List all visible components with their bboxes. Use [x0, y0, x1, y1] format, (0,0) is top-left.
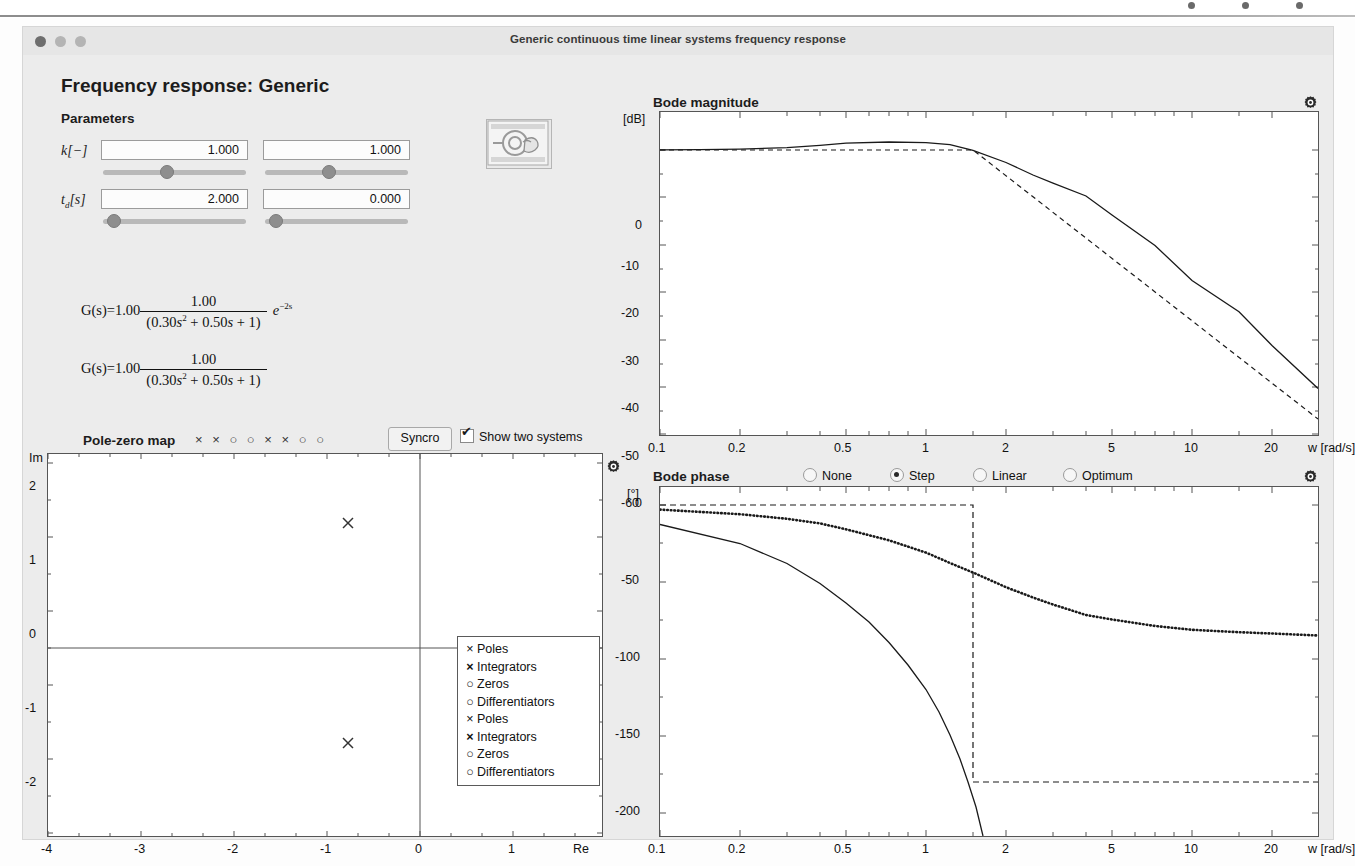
td-slider-1[interactable]: [103, 214, 246, 228]
bp-xtick-5: 5: [1108, 842, 1115, 856]
bode-magnitude-plot[interactable]: [659, 111, 1319, 436]
bp-xtick-0p1: 0.1: [648, 842, 665, 856]
bp-xtick-2: 2: [1002, 842, 1009, 856]
formula-1-denominator: (0.30s2 + 0.50s + 1): [140, 311, 266, 331]
formula-1-lhs: G(s)=1.00: [81, 302, 140, 318]
param-label-k: k[−]: [61, 143, 88, 159]
legend-label: Integrators: [477, 660, 537, 674]
radio-none-label: None: [822, 469, 852, 483]
radio-option-step[interactable]: Step: [890, 468, 935, 483]
window-title: Generic continuous time linear systems f…: [23, 33, 1333, 45]
bm-ytick-m10: -10: [621, 259, 639, 273]
bode-magnitude-x-axis-label: w [rad/s]: [1308, 441, 1355, 455]
pole-zero-header-symbols: × × ○ ○ × × ○ ○: [195, 432, 327, 447]
legend-item-integrators-2: ×Integrators: [463, 729, 593, 747]
bode-magnitude-gear-icon[interactable]: [1303, 95, 1318, 110]
radio-optimum-indicator[interactable]: [1063, 468, 1077, 482]
radio-option-optimum[interactable]: Optimum: [1063, 468, 1133, 483]
bode-magnitude-y-unit: [dB]: [623, 112, 645, 126]
pz-xtick-m1: -1: [320, 842, 331, 856]
bm-ytick-0: 0: [635, 218, 642, 232]
td-value-field-2[interactable]: 0.000: [263, 189, 410, 209]
legend-poles-x-icon-2: ×: [463, 711, 477, 729]
pz-xtick-0: 0: [415, 842, 422, 856]
k-value-field-1[interactable]: 1.000: [101, 140, 248, 160]
pole-zero-y-axis-label: Im: [29, 451, 43, 465]
transfer-function-formula-2: G(s)=1.00 1.00 (0.30s2 + 0.50s + 1): [81, 351, 267, 389]
bp-ytick-m200: -200: [615, 804, 640, 818]
desktop-top-strip: [0, 0, 1355, 18]
bm-ytick-m30: -30: [621, 354, 639, 368]
app-canvas: Frequency response: Generic Parameters k…: [23, 55, 1333, 839]
transfer-function-formula-1: G(s)=1.00 1.00 (0.30s2 + 0.50s + 1) e−2s: [81, 293, 292, 331]
pole-zero-x-axis-label: Re: [573, 842, 589, 856]
legend-label: Zeros: [477, 747, 509, 761]
bode-phase-plot[interactable]: [659, 486, 1319, 837]
td-slider-1-thumb[interactable]: [107, 214, 121, 228]
bode-phase-x-axis-label: w [rad/s]: [1308, 842, 1355, 856]
bm-ytick-m50: -50: [621, 449, 639, 463]
legend-label: Integrators: [477, 730, 537, 744]
legend-item-differentiators-1: ○Differentiators: [463, 694, 593, 712]
bode-phase-gear-icon[interactable]: [1303, 469, 1318, 484]
legend-item-poles-1: ×Poles: [463, 641, 593, 659]
bm-xtick-10: 10: [1184, 441, 1198, 455]
pz-ytick-2: 2: [29, 479, 36, 493]
top-dot-3: [1296, 2, 1303, 9]
radio-linear-label: Linear: [992, 469, 1027, 483]
pole-zero-gear-icon[interactable]: [606, 459, 621, 474]
pole-zero-map-title: Pole-zero map: [83, 433, 175, 448]
bp-xtick-1: 1: [922, 842, 929, 856]
window-titlebar: Generic continuous time linear systems f…: [23, 27, 1333, 56]
bm-xtick-20: 20: [1264, 441, 1278, 455]
legend-integrators-x-icon-2: ×: [463, 729, 477, 747]
page-title: Frequency response: Generic: [61, 75, 329, 97]
bp-xtick-20: 20: [1264, 842, 1278, 856]
radio-option-linear[interactable]: Linear: [973, 468, 1027, 483]
show-two-systems-checkbox[interactable]: Show two systems: [460, 429, 583, 444]
pole-zero-legend: ×Poles ×Integrators ○Zeros ○Differentiat…: [457, 636, 600, 786]
radio-step-indicator[interactable]: [890, 468, 904, 482]
bp-ytick-m50: -50: [621, 573, 639, 587]
legend-item-poles-2: ×Poles: [463, 711, 593, 729]
k-slider-2-track: [265, 170, 408, 175]
bp-ytick-m100: -100: [615, 650, 640, 664]
k-value-field-2[interactable]: 1.000: [263, 140, 410, 160]
top-dot-2: [1242, 2, 1249, 9]
parameters-heading: Parameters: [61, 111, 135, 126]
bm-xtick-0p2: 0.2: [728, 441, 745, 455]
bm-xtick-1: 1: [922, 441, 929, 455]
td-slider-2-thumb[interactable]: [269, 214, 283, 228]
td-value-field-1[interactable]: 2.000: [101, 189, 248, 209]
legend-poles-x-icon: ×: [463, 641, 477, 659]
legend-item-integrators-1: ×Integrators: [463, 659, 593, 677]
k-slider-2-thumb[interactable]: [322, 165, 336, 179]
legend-differentiators-circle-icon-2: ○: [463, 764, 477, 782]
bode-phase-title: Bode phase: [653, 469, 730, 484]
bp-xtick-10: 10: [1184, 842, 1198, 856]
legend-label: Poles: [477, 642, 508, 656]
radio-option-none[interactable]: None: [803, 468, 852, 483]
show-two-systems-checkmark-icon[interactable]: [460, 429, 474, 443]
bp-ytick-m150: -150: [615, 727, 640, 741]
app-root: Generic continuous time linear systems f…: [0, 0, 1355, 866]
pz-ytick-1: 1: [29, 553, 36, 567]
app-window: Generic continuous time linear systems f…: [22, 26, 1334, 840]
formula-2-denominator: (0.30s2 + 0.50s + 1): [140, 369, 266, 389]
legend-zeros-circle-icon-2: ○: [463, 746, 477, 764]
radio-linear-indicator[interactable]: [973, 468, 987, 482]
legend-label: Zeros: [477, 677, 509, 691]
k-slider-1-thumb[interactable]: [160, 165, 174, 179]
k-slider-1[interactable]: [103, 165, 246, 179]
pz-xtick-m4: -4: [41, 842, 52, 856]
td-slider-2[interactable]: [265, 214, 408, 228]
legend-item-differentiators-2: ○Differentiators: [463, 764, 593, 782]
frequency-response-app-icon: [486, 119, 552, 169]
radio-none-indicator[interactable]: [803, 468, 817, 482]
bp-ytick-0: 0: [635, 496, 642, 510]
bm-ytick-m20: -20: [621, 306, 639, 320]
pole-zero-plot[interactable]: ×Poles ×Integrators ○Zeros ○Differentiat…: [47, 453, 603, 837]
syncro-button[interactable]: Syncro: [388, 427, 452, 451]
pz-xtick-m3: -3: [134, 842, 145, 856]
k-slider-2[interactable]: [265, 165, 408, 179]
